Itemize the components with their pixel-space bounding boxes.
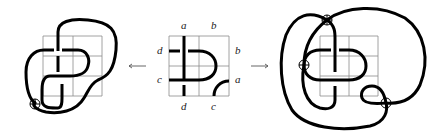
label-left-c: c bbox=[157, 73, 162, 85]
middle-strand-d-arc bbox=[169, 51, 216, 80]
knot-tiling-diagram: a b d c b a d c bbox=[0, 0, 439, 137]
middle-panel: a b d c b a d c bbox=[157, 19, 241, 112]
right-arrow-icon bbox=[251, 64, 268, 68]
left-panel bbox=[26, 20, 116, 113]
label-top-b: b bbox=[211, 19, 217, 31]
right-strand-vertical bbox=[327, 20, 335, 72]
label-bottom-d: d bbox=[181, 100, 187, 112]
right-panel bbox=[281, 8, 425, 128]
label-right-b: b bbox=[235, 44, 241, 56]
label-top-a: a bbox=[181, 19, 187, 31]
left-grid bbox=[43, 36, 102, 96]
left-strand-outer bbox=[34, 20, 117, 113]
right-strand-small-loop bbox=[361, 86, 386, 103]
left-arrow-icon bbox=[129, 64, 146, 68]
middle-strand-c-corner bbox=[214, 81, 229, 96]
label-bottom-c: c bbox=[211, 100, 216, 112]
label-left-d: d bbox=[157, 44, 163, 56]
label-right-a: a bbox=[235, 73, 241, 85]
middle-grid bbox=[169, 36, 229, 96]
right-strand-vertical-lower bbox=[303, 65, 335, 109]
